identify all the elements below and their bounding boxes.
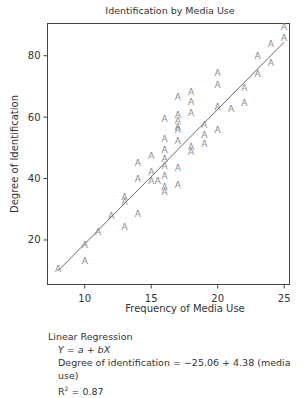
data-point-marker: A — [215, 102, 222, 112]
x-tick-label: 25 — [278, 293, 291, 304]
data-point-marker: A — [161, 161, 168, 171]
r2-value: = 0.87 — [68, 386, 103, 397]
data-point-marker: A — [268, 58, 275, 68]
caption-model: Y = a + bX — [48, 343, 303, 356]
data-point-marker: A — [175, 92, 182, 102]
data-point-marker: A — [82, 256, 89, 266]
x-tick-label: 15 — [145, 293, 158, 304]
data-point-marker: A — [255, 69, 262, 79]
data-point-marker: A — [175, 163, 182, 173]
caption-heading: Linear Regression — [48, 330, 303, 343]
data-point-marker: A — [201, 139, 208, 149]
data-point-marker: A — [281, 22, 288, 32]
data-point-marker: A — [135, 174, 142, 184]
caption-r-squared: R2 = 0.87 — [48, 382, 303, 398]
x-tick-label: 20 — [211, 293, 224, 304]
data-point-marker: A — [188, 147, 195, 157]
data-point-marker: A — [148, 151, 155, 161]
data-point-marker: A — [268, 39, 275, 49]
data-point-marker: A — [161, 171, 168, 181]
y-tick-label: 80 — [28, 50, 41, 61]
caption-equation: Degree of identification = −25.06 + 4.38… — [48, 356, 303, 382]
data-point-marker: A — [241, 83, 248, 93]
x-tick-label: 10 — [78, 293, 91, 304]
chart-title: Identification by Media Use — [105, 5, 234, 16]
data-point-marker: A — [241, 98, 248, 108]
data-point-marker: A — [161, 114, 168, 124]
data-point-marker: A — [175, 136, 182, 146]
data-point-marker: A — [122, 197, 129, 207]
y-axis-label: Degree of Identification — [9, 95, 20, 213]
data-point-marker: A — [215, 68, 222, 78]
data-point-marker: A — [135, 209, 142, 219]
data-point-marker: A — [82, 240, 89, 250]
data-point-marker: A — [135, 158, 142, 168]
data-point-marker: A — [175, 180, 182, 190]
data-point-marker: A — [122, 222, 129, 232]
data-point-marker: A — [201, 120, 208, 130]
data-point-marker: A — [201, 130, 208, 140]
data-point-marker: A — [188, 108, 195, 118]
data-point-marker: A — [188, 87, 195, 97]
data-point-marker: A — [161, 187, 168, 197]
data-point-marker: A — [281, 33, 288, 43]
data-point-marker: A — [161, 134, 168, 144]
data-point-marker: A — [55, 264, 62, 274]
data-point-marker: A — [215, 80, 222, 90]
data-point-marker: A — [188, 97, 195, 107]
regression-caption: Linear Regression Y = a + bX Degree of i… — [48, 330, 303, 398]
data-point-marker: A — [95, 227, 102, 237]
data-point-marker: A — [215, 125, 222, 135]
data-point-marker: A — [108, 211, 115, 221]
data-point-marker: A — [228, 104, 235, 114]
regression-line — [58, 42, 284, 271]
scatter-chart: Identification by Media Use 20406080 101… — [0, 0, 303, 320]
y-axis: 20406080 — [28, 50, 48, 245]
y-tick-label: 20 — [28, 234, 41, 245]
y-tick-label: 40 — [28, 173, 41, 184]
data-point-marker: A — [175, 125, 182, 135]
x-axis: 10152025 — [78, 285, 290, 304]
x-axis-label: Frequency of Media Use — [125, 303, 245, 314]
data-points: AAAAAAAAAAAAAAAAAAAAAAAAAAAAAAAAAAAAAAAA… — [55, 22, 288, 274]
r2-symbol: R — [58, 386, 65, 397]
data-point-marker: A — [255, 51, 262, 61]
y-tick-label: 60 — [28, 112, 41, 123]
